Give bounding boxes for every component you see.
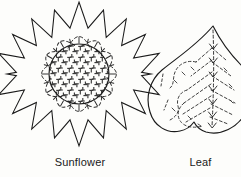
leaf-caption: Leaf — [160, 157, 241, 168]
pattern-plate — [0, 0, 241, 177]
sunflower-caption: Sunflower — [0, 157, 160, 168]
